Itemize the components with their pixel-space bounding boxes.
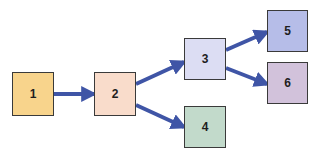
arrow-3-to-6 bbox=[226, 68, 267, 84]
node-4: 4 bbox=[184, 106, 226, 148]
node-6-label: 6 bbox=[284, 76, 291, 90]
arrow-2-to-3 bbox=[136, 62, 184, 84]
arrow-2-to-4 bbox=[136, 105, 184, 127]
node-5-label: 5 bbox=[284, 24, 291, 38]
node-5: 5 bbox=[267, 10, 308, 52]
node-1-label: 1 bbox=[30, 87, 37, 101]
arrow-3-to-5 bbox=[226, 32, 267, 50]
node-1: 1 bbox=[12, 72, 54, 116]
node-4-label: 4 bbox=[202, 120, 209, 134]
node-6: 6 bbox=[267, 62, 308, 104]
node-2: 2 bbox=[94, 72, 136, 116]
flow-diagram: 1 2 3 4 5 6 bbox=[0, 0, 320, 157]
node-3-label: 3 bbox=[202, 52, 209, 66]
node-3: 3 bbox=[184, 38, 226, 80]
node-2-label: 2 bbox=[112, 87, 119, 101]
